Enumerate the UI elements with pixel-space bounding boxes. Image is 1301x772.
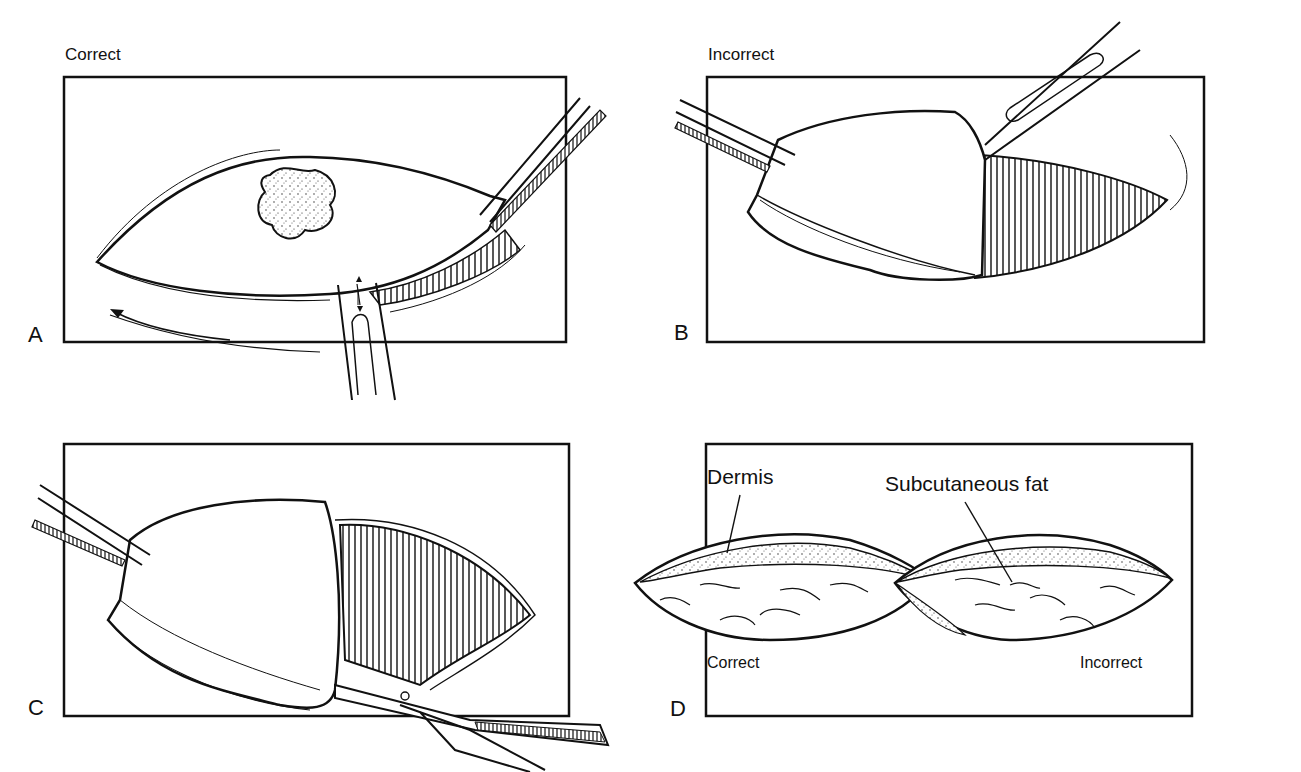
panel-c-drawing xyxy=(32,444,608,772)
panel-b-exposed-fat xyxy=(975,155,1167,278)
correct-sublabel: Correct xyxy=(707,654,759,672)
panel-c-letter: C xyxy=(28,695,44,721)
panel-b-flap xyxy=(748,111,985,280)
panel-b-drawing xyxy=(675,22,1204,342)
panel-b-letter: B xyxy=(674,320,689,346)
panel-c-exposed-fat xyxy=(340,525,530,685)
panel-b-skin-hook xyxy=(985,22,1140,160)
panel-b-caption: Incorrect xyxy=(708,45,774,65)
panel-c-scissors xyxy=(335,685,608,772)
panel-a-caption: Correct xyxy=(65,45,121,65)
panel-c-flap xyxy=(108,500,339,708)
panel-a-drawing xyxy=(64,77,606,400)
dermis-label: Dermis xyxy=(707,465,774,489)
panel-a-letter: A xyxy=(28,322,43,348)
incorrect-sublabel: Incorrect xyxy=(1080,654,1142,672)
specimen-incorrect xyxy=(895,535,1172,640)
panel-d-letter: D xyxy=(670,696,686,722)
specimen-correct xyxy=(635,534,930,640)
subcutaneous-fat-label: Subcutaneous fat xyxy=(885,472,1048,496)
